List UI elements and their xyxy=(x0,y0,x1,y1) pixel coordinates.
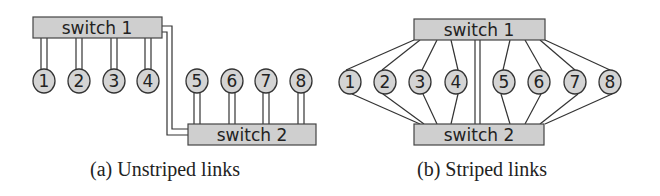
svg-text:8: 8 xyxy=(296,71,307,91)
node-6: 6 xyxy=(221,69,243,93)
switch-1: switch 1 xyxy=(33,17,162,38)
switch-label: switch 1 xyxy=(62,18,133,38)
node-links-switch1 xyxy=(41,38,151,69)
switch-2: switch 2 xyxy=(188,124,316,145)
svg-text:3: 3 xyxy=(109,71,120,91)
switch-2: switch 2 xyxy=(414,124,544,145)
inter-switch-link xyxy=(162,26,188,129)
links-to-switch1 xyxy=(346,40,610,70)
svg-text:1: 1 xyxy=(39,71,50,91)
svg-text:3: 3 xyxy=(415,72,426,92)
svg-text:7: 7 xyxy=(261,71,272,91)
figure-a-unstriped: switch 1 switch 2 1 2 3 4 5 6 7 8 (a) Un… xyxy=(33,17,316,181)
node-7: 7 xyxy=(564,70,586,94)
caption-b: (b) Striped links xyxy=(417,158,547,181)
node-8: 8 xyxy=(599,70,621,94)
node-links-switch2 xyxy=(194,93,304,124)
node-1: 1 xyxy=(339,70,361,94)
switch-label: switch 2 xyxy=(217,125,288,145)
node-7: 7 xyxy=(255,69,277,93)
svg-text:6: 6 xyxy=(227,71,238,91)
figure-b-striped: switch 1 switch 2 1 2 3 4 5 6 7 8 (b) St… xyxy=(339,19,621,181)
node-4: 4 xyxy=(445,70,467,94)
node-2: 2 xyxy=(68,69,90,93)
caption-a: (a) Unstriped links xyxy=(90,158,240,181)
node-6: 6 xyxy=(528,70,550,94)
svg-text:4: 4 xyxy=(451,72,462,92)
svg-text:5: 5 xyxy=(192,71,203,91)
node-5: 5 xyxy=(493,70,515,94)
switch-label: switch 2 xyxy=(444,125,515,145)
switch-label: switch 1 xyxy=(444,20,515,40)
svg-text:1: 1 xyxy=(345,72,356,92)
node-5: 5 xyxy=(186,69,208,93)
svg-text:5: 5 xyxy=(499,72,510,92)
node-3: 3 xyxy=(103,69,125,93)
node-4: 4 xyxy=(137,69,159,93)
inter-switch-link xyxy=(162,32,188,135)
svg-text:4: 4 xyxy=(143,71,154,91)
node-3: 3 xyxy=(409,70,431,94)
striping-diagram: switch 1 switch 2 1 2 3 4 5 6 7 8 (a) Un… xyxy=(0,0,660,196)
node-8: 8 xyxy=(290,69,312,93)
svg-text:2: 2 xyxy=(74,71,85,91)
svg-text:2: 2 xyxy=(380,72,391,92)
switch-1: switch 1 xyxy=(414,19,545,40)
links-to-switch2 xyxy=(352,94,612,124)
svg-text:6: 6 xyxy=(534,72,545,92)
svg-text:8: 8 xyxy=(605,72,616,92)
node-2: 2 xyxy=(374,70,396,94)
node-1: 1 xyxy=(33,69,55,93)
svg-text:7: 7 xyxy=(570,72,581,92)
